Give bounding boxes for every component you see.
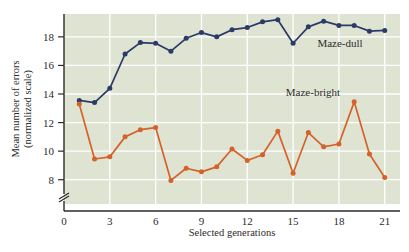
- x-tick-label: 9: [199, 215, 205, 227]
- x-tick-label: 21: [379, 215, 390, 227]
- data-point: [199, 169, 204, 174]
- data-point: [123, 52, 128, 57]
- data-point: [336, 142, 341, 147]
- data-point: [168, 178, 173, 183]
- data-point: [321, 19, 326, 24]
- data-point: [107, 154, 112, 159]
- data-point: [123, 134, 128, 139]
- data-point: [260, 19, 265, 24]
- x-axis-ticks: 036912151821: [61, 215, 390, 227]
- y-axis-ticks: 81012141618: [43, 31, 64, 186]
- x-tick-label: 3: [107, 215, 113, 227]
- data-point: [367, 29, 372, 34]
- data-point: [230, 27, 235, 32]
- data-point: [352, 99, 357, 104]
- line-chart-svg: 81012141618 036912151821 Maze-dull Maze-…: [0, 0, 409, 252]
- y-tick-label: 8: [49, 174, 55, 186]
- data-point: [306, 130, 311, 135]
- data-point: [275, 129, 280, 134]
- data-point: [352, 23, 357, 28]
- data-point: [321, 144, 326, 149]
- data-point: [230, 147, 235, 152]
- maze-bright-label: Maze-bright: [286, 86, 340, 98]
- data-point: [245, 158, 250, 163]
- x-tick-label: 0: [61, 215, 67, 227]
- y-tick-label: 10: [43, 145, 55, 157]
- data-point: [184, 36, 189, 41]
- y-tick-label: 12: [43, 117, 54, 129]
- data-point: [138, 127, 143, 132]
- x-axis-title: Selected generations: [189, 227, 276, 238]
- data-point: [138, 40, 143, 45]
- data-point: [199, 30, 204, 35]
- y-axis-title-line1: Mean number of errors: [10, 60, 21, 157]
- x-tick-label: 15: [288, 215, 300, 227]
- data-point: [275, 17, 280, 22]
- data-point: [291, 41, 296, 46]
- x-tick-label: 6: [153, 215, 159, 227]
- data-point: [291, 171, 296, 176]
- data-point: [214, 164, 219, 169]
- data-point: [214, 34, 219, 39]
- data-point: [153, 41, 158, 46]
- data-point: [92, 100, 97, 105]
- y-tick-label: 16: [43, 59, 55, 71]
- data-point: [107, 86, 112, 91]
- maze-dull-label: Maze-dull: [317, 37, 362, 49]
- data-point: [77, 102, 82, 107]
- x-tick-label: 18: [333, 215, 345, 227]
- data-point: [306, 24, 311, 29]
- data-point: [168, 49, 173, 54]
- data-point: [245, 25, 250, 30]
- data-point: [382, 175, 387, 180]
- data-point: [367, 152, 372, 157]
- data-point: [153, 125, 158, 130]
- y-axis-title-line2: (normalized scale): [22, 70, 34, 148]
- y-tick-label: 14: [43, 88, 55, 100]
- data-point: [92, 157, 97, 162]
- data-point: [184, 166, 189, 171]
- chart-figure: 81012141618 036912151821 Maze-dull Maze-…: [0, 0, 409, 252]
- data-point: [382, 28, 387, 33]
- y-tick-label: 18: [43, 31, 55, 43]
- x-tick-label: 12: [242, 215, 253, 227]
- data-point: [336, 23, 341, 28]
- data-point: [260, 152, 265, 157]
